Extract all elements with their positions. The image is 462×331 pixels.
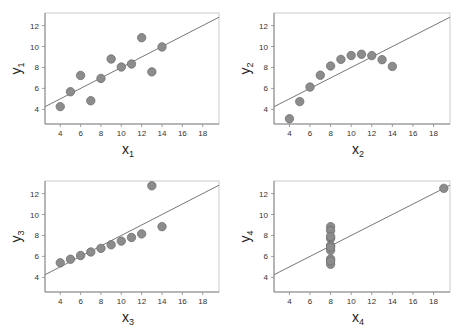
x-tick-label: 8 (99, 129, 104, 138)
data-point (285, 115, 293, 123)
x-tick-label: 4 (58, 297, 63, 306)
data-point (326, 62, 334, 70)
data-point (137, 230, 145, 238)
y-tick-label: 6 (264, 84, 269, 93)
data-point (107, 241, 115, 249)
y-tick-label: 8 (35, 231, 40, 240)
scatter-panel-2: 46810121416184681012x2y2 (237, 13, 450, 159)
x-axis-label: x2 (352, 141, 364, 159)
y-tick-label: 8 (35, 63, 40, 72)
scatter-panel-1: 46810121416184681012x1y1 (8, 13, 219, 159)
data-point (137, 34, 145, 42)
data-point (316, 71, 324, 79)
data-point (347, 51, 355, 59)
data-point (56, 102, 64, 110)
data-point (56, 259, 64, 267)
plot-frame (274, 181, 450, 292)
anscombe-quartet-figure: 46810121416184681012x1y14681012141618468… (0, 0, 462, 331)
data-point (158, 43, 166, 51)
data-point (388, 62, 396, 70)
y-axis-label: y4 (237, 230, 255, 242)
data-point (97, 244, 105, 252)
y-axis-label: y2 (237, 62, 255, 74)
data-point (440, 184, 448, 192)
data-point (337, 55, 345, 63)
y-tick-label: 12 (259, 22, 268, 31)
data-point (306, 83, 314, 91)
x-tick-label: 8 (99, 297, 104, 306)
x-tick-label: 16 (408, 297, 417, 306)
plot-frame (274, 13, 450, 124)
x-tick-label: 14 (158, 297, 167, 306)
x-tick-label: 14 (388, 129, 397, 138)
data-point (117, 237, 125, 245)
y-tick-label: 4 (264, 105, 269, 114)
regression-line (274, 17, 450, 107)
y-tick-label: 10 (259, 211, 268, 220)
x-tick-label: 18 (198, 129, 207, 138)
y-tick-label: 10 (259, 43, 268, 52)
x-tick-label: 4 (287, 129, 292, 138)
x-tick-label: 14 (158, 129, 167, 138)
data-point (326, 232, 334, 240)
x-axis-label: x4 (352, 309, 364, 327)
scatter-panel-4: 46810121416184681012x4y4 (237, 181, 450, 327)
x-tick-label: 16 (408, 129, 417, 138)
x-tick-label: 18 (198, 297, 207, 306)
y-axis-label: y3 (8, 230, 26, 242)
x-tick-label: 6 (78, 297, 83, 306)
x-axis-label: x1 (122, 141, 134, 159)
data-point (148, 68, 156, 76)
x-tick-label: 6 (78, 129, 83, 138)
data-point (76, 251, 84, 259)
y-tick-label: 6 (264, 252, 269, 261)
x-tick-label: 18 (429, 129, 438, 138)
y-tick-label: 10 (30, 211, 39, 220)
data-point (117, 63, 125, 71)
data-point (148, 182, 156, 190)
scatter-panel-3: 46810121416184681012x3y3 (8, 181, 219, 327)
data-point (326, 257, 334, 265)
y-tick-label: 8 (264, 63, 269, 72)
regression-line (274, 185, 450, 275)
data-point (158, 222, 166, 230)
data-point (107, 55, 115, 63)
data-point (378, 56, 386, 64)
data-point (66, 255, 74, 263)
y-tick-label: 4 (35, 105, 40, 114)
data-point (76, 71, 84, 79)
x-tick-label: 6 (308, 129, 313, 138)
data-point (66, 88, 74, 96)
x-tick-label: 10 (347, 129, 356, 138)
x-tick-label: 6 (308, 297, 313, 306)
y-tick-label: 12 (259, 190, 268, 199)
x-tick-label: 12 (367, 129, 376, 138)
y-axis-label: y1 (8, 62, 26, 74)
y-tick-label: 12 (30, 190, 39, 199)
x-tick-label: 8 (328, 129, 333, 138)
data-point (127, 233, 135, 241)
x-tick-label: 16 (178, 129, 187, 138)
data-point (296, 97, 304, 105)
x-tick-label: 12 (137, 297, 146, 306)
y-tick-label: 12 (30, 22, 39, 31)
x-tick-label: 18 (429, 297, 438, 306)
x-tick-label: 4 (287, 297, 292, 306)
y-tick-label: 8 (264, 231, 269, 240)
x-axis-label: x3 (122, 309, 134, 327)
y-tick-label: 6 (35, 252, 40, 261)
x-tick-label: 14 (388, 297, 397, 306)
y-tick-label: 4 (264, 273, 269, 282)
data-point (87, 97, 95, 105)
data-point (357, 50, 365, 58)
x-tick-label: 12 (137, 129, 146, 138)
scatter-plots-canvas: 46810121416184681012x1y14681012141618468… (0, 0, 462, 331)
x-tick-label: 8 (328, 297, 333, 306)
data-point (368, 51, 376, 59)
y-tick-label: 6 (35, 84, 40, 93)
data-point (127, 60, 135, 68)
data-point (97, 74, 105, 82)
x-tick-label: 16 (178, 297, 187, 306)
x-tick-label: 12 (367, 297, 376, 306)
x-tick-label: 10 (347, 297, 356, 306)
